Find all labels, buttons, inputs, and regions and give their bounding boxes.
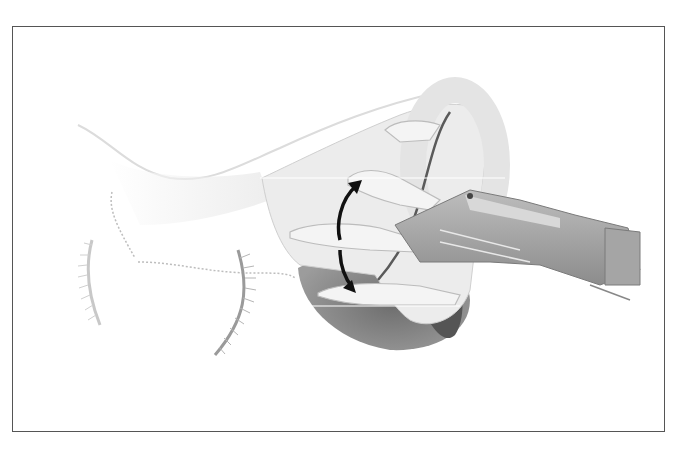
- eyelash-lower: [215, 250, 256, 355]
- anatomical-illustration: [0, 0, 678, 449]
- eyelash-upper: [78, 240, 100, 325]
